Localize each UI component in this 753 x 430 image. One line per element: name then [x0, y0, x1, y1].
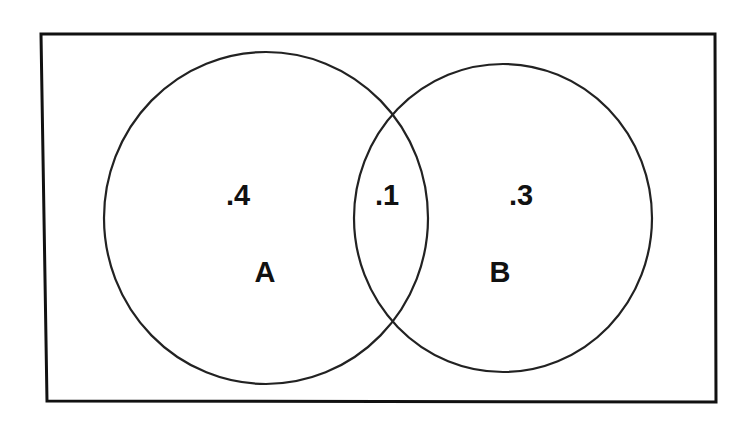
b-only-value: .3 [509, 181, 533, 210]
venn-diagram [0, 0, 753, 430]
intersection-value: .1 [375, 181, 399, 210]
set-b-circle [354, 64, 652, 372]
a-only-value: .4 [226, 181, 250, 210]
set-a-label: A [255, 258, 276, 287]
set-a-circle [104, 52, 428, 384]
set-b-label: B [490, 258, 511, 287]
universe-rectangle [41, 34, 716, 402]
